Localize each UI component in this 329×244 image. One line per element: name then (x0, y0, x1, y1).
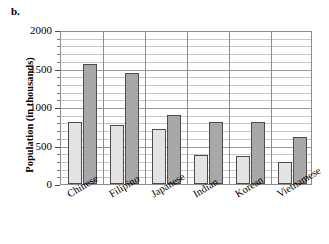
category-separator (145, 32, 146, 184)
gridline-minor (61, 162, 311, 163)
gridline-minor (61, 100, 311, 101)
gridline-minor (61, 54, 311, 55)
gridline-minor (61, 93, 311, 94)
gridline-minor (61, 39, 311, 40)
bar (83, 64, 97, 184)
gridline-minor (61, 116, 311, 117)
y-tick-label: 1500 (30, 64, 52, 75)
panel-letter-label: b. (11, 5, 20, 17)
category-separator (229, 32, 230, 184)
gridline-major (61, 108, 311, 109)
category-separator (271, 32, 272, 184)
bar (125, 73, 139, 184)
gridline-major (61, 147, 311, 148)
gridline-minor (61, 154, 311, 155)
y-axis-title-text: Population (in thousands) (24, 57, 35, 173)
y-tick-label: 0 (47, 179, 53, 190)
gridline-major (61, 70, 311, 71)
bar (194, 155, 208, 184)
gridline-minor (61, 77, 311, 78)
plot-area (60, 31, 312, 185)
y-tick-major (55, 185, 60, 186)
bar (68, 122, 82, 184)
gridline-minor (61, 170, 311, 171)
bar (209, 122, 223, 184)
y-tick-label: 2000 (30, 25, 52, 36)
y-tick-label: 1000 (30, 102, 52, 113)
y-tick-label: 500 (36, 141, 53, 152)
gridline-minor (61, 139, 311, 140)
gridline-minor (61, 46, 311, 47)
bar (152, 129, 166, 184)
category-separator (187, 32, 188, 184)
bar (110, 125, 124, 184)
bar-chart-figure: b. Population (in thousands) 05001000150… (0, 0, 329, 244)
category-separator (103, 32, 104, 184)
gridline-minor (61, 62, 311, 63)
gridline-minor (61, 123, 311, 124)
gridline-minor (61, 131, 311, 132)
gridline-minor (61, 85, 311, 86)
